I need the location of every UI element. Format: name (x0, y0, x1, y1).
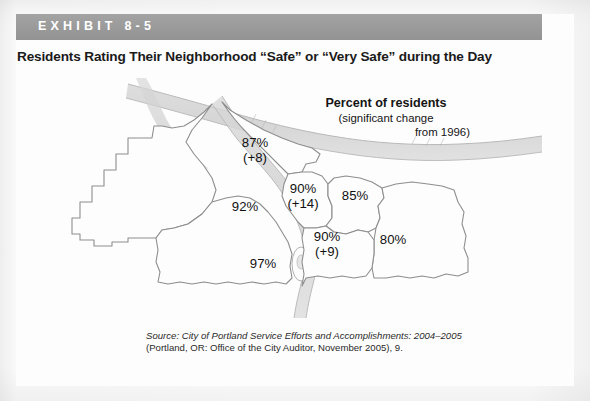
map-label-northeast-inner: 90% (+14) (272, 182, 334, 211)
source-rest: (Portland, OR: Office of the City Audito… (146, 342, 403, 353)
map-label-change: (+14) (272, 197, 334, 212)
map-label-percent: 87% (228, 136, 282, 151)
map-label-change: (+9) (298, 245, 356, 260)
exhibit-number-label: EXHIBIT 8-5 (38, 19, 155, 33)
map-label-percent: 90% (272, 182, 334, 197)
map-label-percent: 90% (298, 230, 356, 245)
map-label-northeast-outer: 85% (328, 189, 382, 204)
legend-subtitle-line2: from 1996) (288, 125, 484, 139)
map-label-southwest-portland: 97% (236, 257, 290, 272)
map-label-change: (+8) (228, 151, 282, 166)
map-label-northwest-portland: 92% (218, 200, 272, 215)
map-label-percent: 85% (328, 189, 382, 204)
map-label-percent: 92% (218, 200, 272, 215)
district-northeast-outer (326, 176, 384, 234)
legend-subtitle-line1: (significant change (288, 111, 484, 125)
page-title: Residents Rating Their Neighborhood “Saf… (17, 49, 547, 64)
district-east-portland (372, 182, 468, 278)
source-italic-title: City of Portland Service Efforts and Acc… (182, 330, 462, 341)
map-legend: Percent of residents (significant change… (288, 96, 484, 139)
exhibit-page: EXHIBIT 8-5 Residents Rating Their Neigh… (0, 0, 590, 401)
map-label-southeast-inner: 90% (+9) (298, 230, 356, 259)
map-label-percent: 80% (366, 233, 420, 248)
source-note: Source: City of Portland Service Efforts… (146, 330, 466, 353)
map-label-east-portland: 80% (366, 233, 420, 248)
exhibit-header-band: EXHIBIT 8-5 (16, 14, 542, 40)
map-label-percent: 97% (236, 257, 290, 272)
map-label-north-portland: 87% (+8) (228, 136, 282, 165)
source-prefix: Source: (146, 330, 182, 341)
legend-title: Percent of residents (288, 96, 484, 111)
